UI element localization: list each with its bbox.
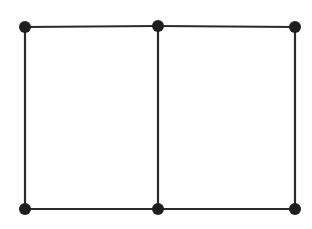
graph-diagram — [0, 0, 312, 229]
node-n4 — [19, 203, 31, 215]
node-n5 — [152, 203, 164, 215]
node-n6 — [289, 203, 301, 215]
node-n1 — [19, 21, 31, 33]
node-n3 — [289, 21, 301, 33]
edges-group — [25, 26, 295, 209]
edge-n1-n2 — [25, 26, 158, 27]
edge-n2-n3 — [158, 26, 295, 27]
nodes-group — [19, 20, 301, 215]
node-n2 — [152, 20, 164, 32]
